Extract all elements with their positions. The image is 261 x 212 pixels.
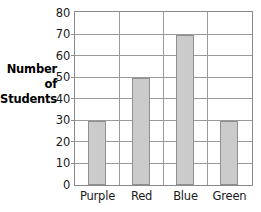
bar-red bbox=[132, 78, 150, 186]
y-axis-tick-mark bbox=[71, 163, 75, 164]
x-axis-tick-label: Blue bbox=[173, 189, 198, 203]
gridline-vertical bbox=[207, 12, 208, 185]
x-axis-tick-labels: PurpleRedBlueGreen bbox=[74, 189, 253, 209]
x-axis-tick-label: Purple bbox=[80, 189, 115, 203]
y-axis-tick-mark bbox=[71, 98, 75, 99]
gridline-vertical bbox=[163, 12, 164, 185]
y-axis-tick-labels: 80706050403020100 bbox=[46, 0, 70, 186]
y-axis-tick-mark bbox=[71, 120, 75, 121]
x-axis-tick-label: Green bbox=[213, 189, 247, 203]
y-axis-tick-label: 60 bbox=[46, 50, 70, 61]
y-axis-tick-label: 30 bbox=[46, 115, 70, 126]
bar-green bbox=[220, 121, 238, 186]
bar-purple bbox=[88, 121, 106, 186]
bar-blue bbox=[176, 35, 194, 186]
y-axis-tick-mark bbox=[71, 34, 75, 35]
y-axis-tick-mark bbox=[71, 141, 75, 142]
y-axis-tick-label: 70 bbox=[46, 29, 70, 40]
y-axis-tick-mark bbox=[71, 77, 75, 78]
y-axis-tick-label: 50 bbox=[46, 72, 70, 83]
y-axis-tick-label: 40 bbox=[46, 93, 70, 104]
y-axis-tick-label: 80 bbox=[46, 7, 70, 18]
x-axis-tick-label: Red bbox=[131, 189, 152, 203]
y-axis-tick-label: 10 bbox=[46, 158, 70, 169]
plot-area bbox=[74, 11, 253, 186]
y-axis-tick-label: 20 bbox=[46, 136, 70, 147]
gridline-vertical bbox=[119, 12, 120, 185]
y-axis-tick-label: 0 bbox=[46, 179, 70, 190]
bar-chart: Number of Students 80706050403020100 Pur… bbox=[0, 0, 261, 212]
y-axis-tick-mark bbox=[71, 55, 75, 56]
